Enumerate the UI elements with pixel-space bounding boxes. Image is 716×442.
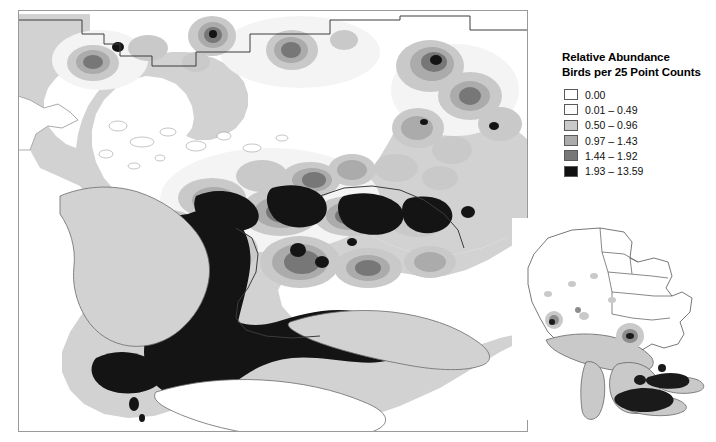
legend-label-1: 0.01 – 0.49 (585, 104, 638, 116)
legend-swatch-2 (564, 120, 578, 131)
legend-swatch-4 (564, 150, 578, 161)
legend-label-0: 0.00 (585, 89, 605, 101)
legend-swatch-1 (564, 104, 578, 115)
legend-swatch-0 (564, 89, 578, 100)
legend-item-5: 1.93 – 13.59 (562, 163, 714, 178)
legend-swatch-3 (564, 135, 578, 146)
inset-overview-map (512, 218, 716, 420)
legend-title: Relative Abundance Birds per 25 Point Co… (562, 50, 714, 79)
map-legend: Relative Abundance Birds per 25 Point Co… (562, 50, 714, 179)
distribution-map-figure: Relative Abundance Birds per 25 Point Co… (0, 0, 716, 442)
legend-item-2: 0.50 – 0.96 (562, 118, 714, 133)
main-detail-map (0, 0, 546, 442)
legend-item-4: 1.44 – 1.92 (562, 148, 714, 163)
legend-label-3: 0.97 – 1.43 (585, 135, 638, 147)
legend-item-1: 0.01 – 0.49 (562, 102, 714, 117)
legend-title-line2: Birds per 25 Point Counts (562, 65, 714, 80)
legend-item-3: 0.97 – 1.43 (562, 133, 714, 148)
legend-label-2: 0.50 – 0.96 (585, 119, 638, 131)
legend-label-5: 1.93 – 13.59 (585, 165, 643, 177)
legend-swatch-5 (564, 166, 578, 177)
legend-title-line1: Relative Abundance (562, 50, 714, 65)
legend-label-4: 1.44 – 1.92 (585, 150, 638, 162)
legend-item-0: 0.00 (562, 87, 714, 102)
